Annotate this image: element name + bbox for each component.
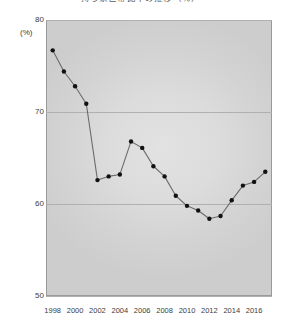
- panel-border-right: [271, 20, 272, 296]
- y-axis-unit-label: (%): [20, 29, 44, 37]
- line-chart-figure: 持ち家世帯比率の推移（％） (%) 80706050 1998200020022…: [0, 0, 281, 336]
- y-tick-label-60: 60: [18, 200, 44, 208]
- x-tick-label-2016: 2016: [239, 306, 269, 315]
- gridline-y-60: [46, 204, 272, 205]
- gridline-y-70: [46, 112, 272, 113]
- y-tick-label-50: 50: [18, 292, 44, 300]
- gridline-y-50: [46, 296, 272, 297]
- gridline-y-80: [46, 20, 272, 21]
- panel-border-left: [46, 20, 47, 296]
- chart-title: 持ち家世帯比率の推移（％）: [0, 0, 281, 2]
- y-tick-label-80: 80: [18, 16, 44, 24]
- y-tick-label-70: 70: [18, 108, 44, 116]
- plot-area: [46, 20, 272, 296]
